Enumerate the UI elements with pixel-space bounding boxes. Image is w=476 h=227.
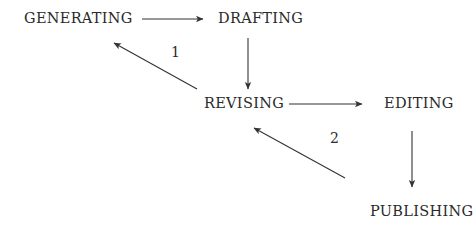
node-revising: REVISING [204, 96, 284, 111]
edge-label-2: 2 [330, 131, 339, 145]
arrow-revising-to-generating [114, 43, 197, 89]
node-editing: EDITING [384, 96, 454, 111]
writing-process-diagram: GENERATING DRAFTING REVISING EDITING PUB… [0, 0, 476, 227]
node-generating: GENERATING [24, 11, 133, 26]
arrows-layer [0, 0, 476, 227]
edge-label-1: 1 [171, 45, 180, 59]
node-drafting: DRAFTING [218, 11, 303, 26]
node-publishing: PUBLISHING [370, 204, 473, 219]
